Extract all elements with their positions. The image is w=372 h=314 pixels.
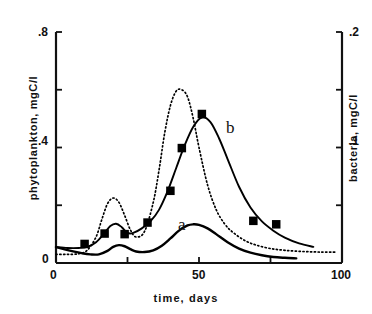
- x-tick-label-0: 0: [50, 268, 57, 282]
- series-a-curve: [56, 224, 296, 258]
- curve-label-b: b: [226, 118, 235, 138]
- curve-label-a: a: [178, 215, 186, 235]
- y-tick-label-left-0: 0: [42, 252, 49, 266]
- x-tick-label-50: 50: [192, 268, 205, 282]
- chart-figure: phytoplankton, mgC/l bacteria, mgC/l tim…: [0, 0, 372, 314]
- y-tick-label-right-02: .2: [349, 25, 359, 39]
- y-tick-label-left-04: .4: [38, 134, 48, 148]
- y-tick-label-left-08: .8: [38, 25, 48, 39]
- series-dotted-curve: [56, 89, 336, 254]
- chart-plot-area: [0, 0, 372, 314]
- x-tick-label-100: 100: [331, 268, 351, 282]
- x-axis-title: time, days: [0, 292, 372, 304]
- y-tick-label-right-01: .1: [349, 134, 359, 148]
